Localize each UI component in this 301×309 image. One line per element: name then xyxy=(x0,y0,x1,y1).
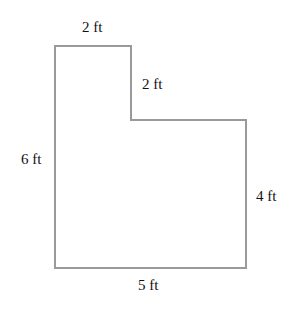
l-shape-figure xyxy=(0,0,301,309)
diagram-canvas: 2 ft 2 ft 6 ft 4 ft 5 ft xyxy=(0,0,301,309)
top-edge-label: 2 ft xyxy=(82,20,102,35)
bottom-edge-label: 5 ft xyxy=(138,278,158,293)
left-edge-label: 6 ft xyxy=(21,152,41,167)
notch-edge-label: 2 ft xyxy=(142,77,162,92)
right-edge-label: 4 ft xyxy=(256,189,276,204)
